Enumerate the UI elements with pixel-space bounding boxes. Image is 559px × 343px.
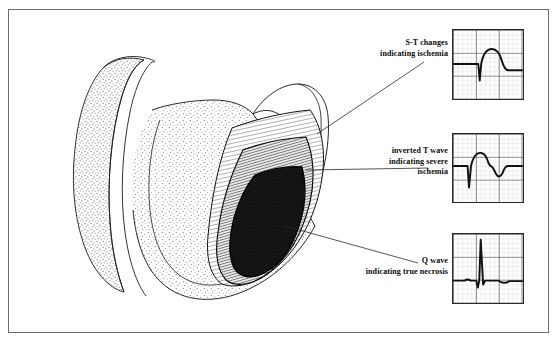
figure-root: S-T changes indicating ischemia inverted… — [0, 0, 559, 343]
ecg-strip-q-wave — [452, 233, 524, 304]
annotation-label-st-changes: S-T changes indicating ischemia — [380, 38, 448, 59]
leader-line-st-changes — [317, 62, 424, 134]
ecg-strip-inverted-t — [452, 133, 524, 203]
ecg-grid — [453, 234, 523, 303]
annotation-label-q-wave: Q wave indicating true necrosis — [366, 256, 448, 277]
ecg-grid — [453, 134, 523, 202]
ecg-strip-st-changes — [452, 29, 524, 100]
annotation-label-inverted-t: inverted T wave indicating severe ischem… — [389, 146, 448, 178]
